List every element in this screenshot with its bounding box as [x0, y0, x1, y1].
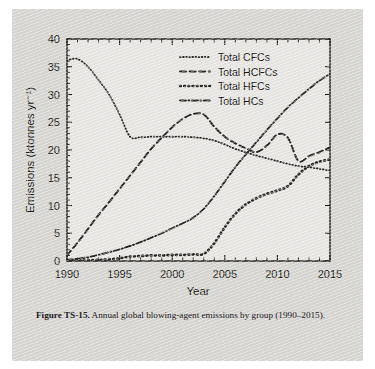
- x-tick-label: 2010: [265, 268, 289, 280]
- y-axis-title: Emissions (ktonnes yr⁻¹): [24, 87, 36, 213]
- legend-label-total-hfcs: Total HFCs: [218, 80, 270, 92]
- x-tick-label: 1990: [55, 268, 79, 280]
- y-tick-label: 15: [48, 172, 60, 184]
- figure-caption-text: Annual global blowing-agent emissions by…: [90, 310, 325, 320]
- y-tick-label: 10: [48, 200, 60, 212]
- emissions-line-chart: 0510152025303540 19901995200020052010201…: [12, 9, 363, 305]
- x-tick-label: 2000: [160, 268, 184, 280]
- x-tick-label: 2015: [318, 268, 342, 280]
- figure-number: Figure TS-15.: [36, 310, 90, 320]
- y-axis-tick-labels: 0510152025303540: [48, 33, 60, 267]
- figure-caption: Figure TS-15. Annual global blowing-agen…: [36, 309, 336, 322]
- figure-page: 0510152025303540 19901995200020052010201…: [12, 9, 363, 361]
- y-tick-label: 0: [54, 255, 60, 267]
- y-tick-label: 20: [48, 144, 60, 156]
- plot-background: [67, 39, 330, 261]
- x-axis-tick-labels: 199019952000200520102015: [55, 268, 342, 280]
- chart-figure: 0510152025303540 19901995200020052010201…: [12, 9, 363, 305]
- x-tick-label: 1995: [107, 268, 131, 280]
- legend-label-total-hcfcs: Total HCFCs: [218, 66, 278, 78]
- x-axis-title: Year: [186, 285, 209, 297]
- legend-label-total-hcs: Total HCs: [218, 95, 264, 107]
- y-tick-label: 25: [48, 116, 60, 128]
- y-tick-label: 5: [54, 227, 60, 239]
- y-tick-label: 30: [48, 89, 60, 101]
- legend-label-total-cfcs: Total CFCs: [218, 51, 270, 63]
- y-tick-label: 40: [48, 33, 60, 45]
- x-tick-label: 2005: [213, 268, 237, 280]
- y-tick-label: 35: [48, 61, 60, 73]
